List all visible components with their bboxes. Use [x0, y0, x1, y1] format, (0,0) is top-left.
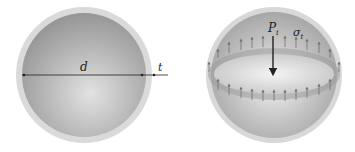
thickness-endpoint	[153, 74, 156, 77]
left-sphere: d t	[16, 7, 168, 143]
thickness-label: t	[158, 61, 163, 74]
diameter-endpoint-right	[141, 74, 144, 77]
right-sphere: Pi σt	[206, 7, 342, 143]
thin-walled-sphere-diagram: d t	[0, 0, 355, 152]
section-plane	[214, 54, 334, 94]
diameter-endpoint-left	[23, 74, 26, 77]
diameter-label: d	[80, 60, 88, 74]
